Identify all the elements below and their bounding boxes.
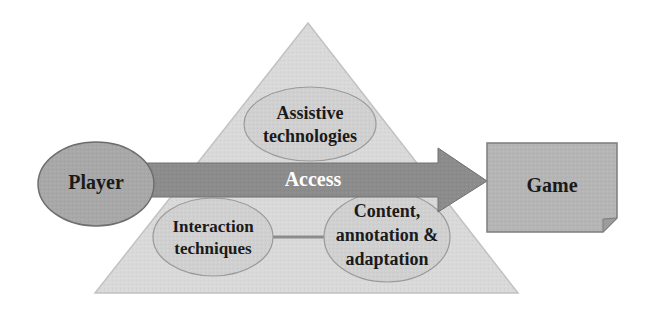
player-node: Player [38,142,154,226]
content-label-line3: adaptation [345,249,428,269]
interaction-techniques-node: Interaction techniques [153,198,273,276]
diagram-canvas: Assistive technologies Interaction techn… [0,0,665,314]
game-node: Game [487,143,617,232]
content-annotation-adaptation-node: Content, annotation & adaptation [324,192,450,282]
assistive-technologies-label-line2: technologies [263,126,357,146]
game-label: Game [526,174,577,196]
assistive-technologies-node: Assistive technologies [244,87,376,161]
access-diagram: Assistive technologies Interaction techn… [0,0,665,314]
interaction-techniques-label-line1: Interaction [172,217,254,236]
interaction-techniques-label-line2: techniques [174,239,252,258]
player-label: Player [68,171,124,194]
access-arrow-label: Access [285,168,342,190]
content-label-line1: Content, [354,201,421,221]
assistive-technologies-label-line1: Assistive [277,103,344,123]
content-label-line2: annotation & [336,225,439,245]
